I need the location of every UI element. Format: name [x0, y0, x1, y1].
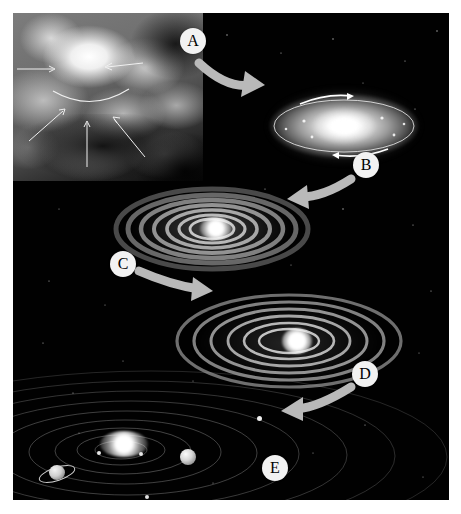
- label-a-text: A: [187, 33, 199, 49]
- label-b[interactable]: B: [353, 152, 379, 178]
- flow-arrow-a: [199, 63, 265, 97]
- flow-arrow-d: [281, 387, 351, 421]
- label-c[interactable]: C: [110, 251, 136, 277]
- flow-arrow-c: [139, 271, 213, 301]
- flow-arrow-b: [287, 179, 351, 209]
- label-e[interactable]: E: [262, 455, 288, 481]
- label-b-text: B: [361, 157, 372, 173]
- label-a[interactable]: A: [180, 28, 206, 54]
- label-d[interactable]: D: [352, 361, 378, 387]
- stage-flow-arrows: [13, 13, 449, 500]
- label-e-text: E: [270, 460, 280, 476]
- solar-system-formation-diagram: [13, 13, 449, 500]
- label-d-text: D: [359, 366, 371, 382]
- label-c-text: C: [118, 256, 129, 272]
